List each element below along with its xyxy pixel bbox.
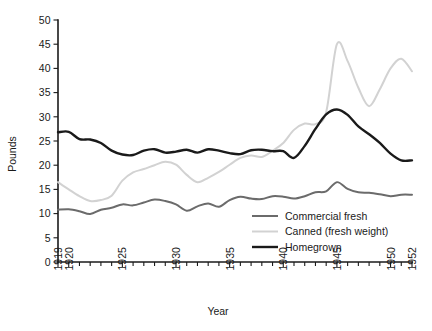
series-line-homegrown (58, 110, 412, 161)
legend-label: Homegrown (285, 241, 342, 253)
y-tick-label: 40 (39, 62, 51, 74)
y-tick-label: 0 (45, 256, 51, 268)
x-tick-label: 1952 (406, 247, 418, 271)
chart-canvas: 05101520253035404550 1919192019251930193… (0, 0, 432, 331)
y-tick-label: 50 (39, 14, 51, 26)
y-tick-label: 15 (39, 183, 51, 195)
y-axis-ticks: 05101520253035404550 (39, 14, 58, 268)
series-line-canned-fresh-weight (58, 42, 412, 201)
y-tick-label: 20 (39, 159, 51, 171)
x-tick-label: 1925 (116, 247, 128, 271)
x-axis-title: Year (207, 305, 229, 317)
x-axis-ticks: 191919201925193019351940194519501952 (52, 247, 418, 271)
y-tick-label: 35 (39, 86, 51, 98)
y-tick-label: 5 (45, 232, 51, 244)
legend-label: Canned (fresh weight) (285, 225, 388, 237)
legend-label: Commercial fresh (285, 210, 367, 222)
data-series-group (58, 42, 412, 214)
x-tick-label: 1935 (224, 247, 236, 271)
y-tick-label: 25 (39, 135, 51, 147)
plot-area: 05101520253035404550 1919192019251930193… (6, 14, 418, 317)
y-tick-label: 45 (39, 38, 51, 50)
y-tick-label: 30 (39, 111, 51, 123)
x-tick-label: 1950 (385, 247, 397, 271)
y-tick-label: 10 (39, 207, 51, 219)
chart-legend: Commercial freshCanned (fresh weight)Hom… (252, 210, 388, 253)
x-tick-label: 1920 (63, 247, 75, 271)
y-axis-title: Pounds (6, 136, 18, 172)
x-tick-label: 1930 (170, 247, 182, 271)
line-chart: 05101520253035404550 1919192019251930193… (0, 0, 432, 331)
